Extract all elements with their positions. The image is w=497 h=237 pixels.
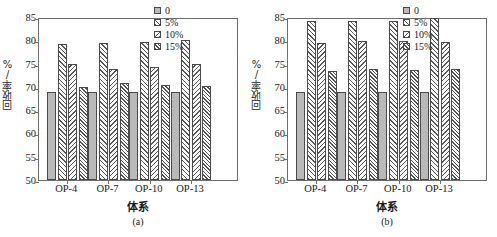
bar [88,92,97,180]
bar-group [296,19,337,180]
bar [296,92,305,180]
y-tick-mark [284,66,288,67]
bar [378,92,387,180]
plot-area-a [38,18,238,181]
legend-b: 05%10%15% [401,4,434,54]
figure-container: 回收率/% 8580757065605550 OP-4OP-7OP-10OP-1… [0,0,497,237]
legend-swatch-icon [154,7,161,14]
chart-panel-a: 回收率/% 8580757065605550 OP-4OP-7OP-10OP-1… [0,0,248,237]
bars-container-a [39,19,237,180]
legend-swatch-icon [403,43,410,50]
y-tick-label: 55 [265,153,285,163]
y-tick-mark [35,159,39,160]
x-axis-label-b: 体系 [287,198,487,214]
y-tick-label: 80 [16,36,36,46]
bar [337,92,346,180]
y-tick-mark [35,19,39,20]
bar [328,71,337,180]
bar [399,41,408,180]
legend-swatch-icon [154,43,161,50]
y-tick-label: 60 [16,129,36,139]
bar [47,92,56,180]
legend-item: 15% [154,41,183,52]
legend-label: 15% [165,42,183,52]
bar [420,92,429,180]
bar [109,69,118,180]
bar [171,92,180,180]
y-tick-labels-a: 8580757065605550 [12,0,36,237]
y-tick-mark [284,135,288,136]
legend-item: 10% [403,29,432,40]
bar [441,42,450,180]
legend-swatch-icon [154,31,161,38]
bar [410,70,419,180]
bar [79,87,88,180]
y-tick-label: 75 [265,60,285,70]
legend-label: 0 [165,6,170,16]
x-tick-label: OP-13 [166,183,214,195]
y-tick-label: 75 [16,60,36,70]
y-tick-label: 65 [16,106,36,116]
x-tick-labels-b: OP-4OP-7OP-10OP-13 [287,183,487,197]
legend-label: 15% [414,42,432,52]
legend-item: 10% [154,29,183,40]
legend-label: 10% [165,30,183,40]
bar [307,21,316,180]
bar-group [88,19,129,180]
legend-item: 0 [403,5,432,16]
bar [181,40,190,180]
bar [161,85,170,180]
plot-area-b [287,18,487,181]
bar [202,86,211,180]
bar [140,42,149,180]
bar-group [337,19,378,180]
legend-swatch-icon [403,19,410,26]
y-tick-label: 50 [265,176,285,186]
y-tick-mark [35,135,39,136]
bar [358,41,367,180]
bar [317,43,326,180]
bar [369,69,378,180]
panel-caption-b: (b) [287,216,487,227]
y-tick-mark [284,42,288,43]
y-tick-mark [35,42,39,43]
y-tick-label: 80 [265,36,285,46]
y-tick-mark [284,19,288,20]
y-tick-mark [284,89,288,90]
y-tick-mark [284,159,288,160]
bar [451,69,460,180]
legend-item: 5% [154,17,183,28]
bar [150,67,159,180]
y-tick-label: 55 [16,153,36,163]
bar [58,44,67,180]
bar-group [47,19,88,180]
x-tick-labels-a: OP-4OP-7OP-10OP-13 [38,183,238,197]
bars-container-b [288,19,486,180]
legend-label: 5% [414,18,427,28]
legend-swatch-icon [403,31,410,38]
y-tick-label: 70 [16,83,36,93]
legend-label: 5% [165,18,178,28]
x-axis-label-a: 体系 [38,198,238,214]
panel-caption-a: (a) [38,216,238,227]
bar [348,21,357,180]
y-tick-label: 60 [265,129,285,139]
y-tick-label: 50 [16,176,36,186]
y-tick-mark [35,66,39,67]
y-tick-label: 65 [265,106,285,116]
y-tick-mark [35,112,39,113]
y-tick-label: 85 [16,13,36,23]
bar [389,21,398,180]
legend-label: 10% [414,30,432,40]
bar [68,64,77,180]
legend-item: 0 [154,5,183,16]
legend-swatch-icon [403,7,410,14]
legend-item: 15% [403,41,432,52]
y-tick-mark [35,89,39,90]
bar [192,64,201,180]
y-tick-labels-b: 8580757065605550 [261,0,285,237]
x-tick-label: OP-13 [415,183,463,195]
legend-a: 05%10%15% [152,4,185,54]
bar [129,92,138,180]
legend-item: 5% [403,17,432,28]
